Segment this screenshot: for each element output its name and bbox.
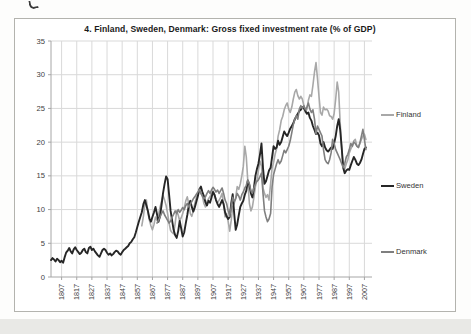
x-tick-label: 1807 <box>57 284 66 300</box>
x-tick-label: 1827 <box>87 284 96 300</box>
x-tick-label: 1847 <box>118 284 127 300</box>
y-tick-label: 30 <box>37 70 45 79</box>
x-tick-label: 1817 <box>72 284 81 300</box>
x-tick-label: 1857 <box>133 284 142 300</box>
x-tick-label: 1947 <box>269 284 278 300</box>
y-tick-label: 10 <box>37 205 45 214</box>
x-tick-label: 1937 <box>254 284 263 300</box>
y-tick-label: 25 <box>37 104 45 113</box>
x-tick-label: 1997 <box>345 284 354 300</box>
x-tick-label: 1867 <box>148 284 157 300</box>
finland-line-swatch <box>381 114 394 116</box>
x-tick-label: 1897 <box>193 284 202 300</box>
y-tick-label: 35 <box>37 37 45 46</box>
x-tick-label: 1887 <box>178 284 187 300</box>
legend: Finland Sweden Denmark <box>381 19 455 312</box>
chart-container: 4. Finland, Sweden, Denmark: Gross fixed… <box>14 18 456 312</box>
sweden-line-swatch <box>381 185 394 187</box>
x-tick-label: 2007 <box>360 284 369 300</box>
page-edge-strip <box>0 319 471 334</box>
y-tick-label: 20 <box>37 138 45 147</box>
y-tick-label: 5 <box>41 239 45 248</box>
y-tick-label: 0 <box>41 273 45 282</box>
legend-item-denmark: Denmark <box>381 247 427 256</box>
y-tick-label: 15 <box>37 171 45 180</box>
x-tick-label: 1977 <box>315 284 324 300</box>
x-tick-label: 1957 <box>284 284 293 300</box>
x-tick-label: 1987 <box>330 284 339 300</box>
legend-label-sweden: Sweden <box>396 181 423 190</box>
denmark-line-swatch <box>381 251 394 253</box>
x-tick-label: 1967 <box>299 284 308 300</box>
legend-item-finland: Finland <box>381 110 421 119</box>
x-tick-label: 1917 <box>224 284 233 300</box>
x-tick-label: 1927 <box>239 284 248 300</box>
x-tick-label: 1877 <box>163 284 172 300</box>
scan-artifact-mark <box>28 0 39 10</box>
x-tick-label: 1837 <box>103 284 112 300</box>
legend-label-finland: Finland <box>396 110 421 119</box>
legend-item-sweden: Sweden <box>381 181 423 190</box>
legend-label-denmark: Denmark <box>396 247 427 256</box>
x-tick-label: 1907 <box>209 284 218 300</box>
